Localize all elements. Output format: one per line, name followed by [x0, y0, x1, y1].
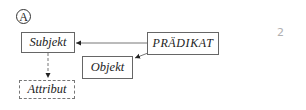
node-attribut-label: Attribut — [28, 82, 67, 97]
node-attribut: Attribut — [19, 80, 75, 99]
node-subjekt-label: Subjekt — [30, 35, 67, 50]
margin-note: 2 — [277, 26, 284, 39]
node-praedikat: PRÄDIKAT — [147, 32, 219, 55]
node-praedikat-label: PRÄDIKAT — [152, 36, 213, 51]
node-subjekt: Subjekt — [21, 32, 75, 53]
node-objekt-label: Objekt — [91, 60, 124, 75]
node-objekt: Objekt — [82, 56, 133, 79]
